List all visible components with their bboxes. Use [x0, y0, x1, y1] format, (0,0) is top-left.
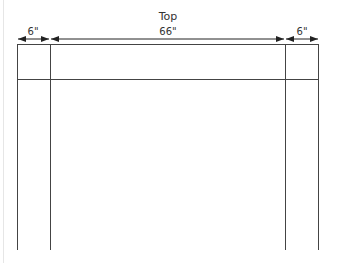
dimension-right: 6" — [286, 26, 318, 39]
dimension-left-label: 6" — [28, 26, 39, 37]
diagram-title: Top — [158, 10, 178, 23]
dimension-right-label: 6" — [297, 26, 308, 37]
dimension-middle: 66" — [51, 26, 284, 39]
dimension-middle-label: 66" — [159, 26, 176, 37]
dimension-left: 6" — [18, 26, 49, 39]
frame-diagram: Top 6" 66" 6" — [0, 0, 339, 263]
frame-outline — [17, 44, 319, 250]
